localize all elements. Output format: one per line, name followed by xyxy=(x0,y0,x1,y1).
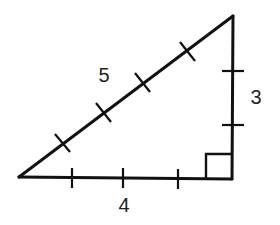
triangle-diagram: 4 3 5 xyxy=(0,0,280,225)
base-edge xyxy=(19,177,232,179)
right-angle-marker xyxy=(206,154,232,178)
height-length-label: 3 xyxy=(250,87,261,107)
height-edge xyxy=(232,16,233,179)
base-length-label: 4 xyxy=(118,195,129,215)
hypotenuse-edge xyxy=(19,16,233,177)
triangle-svg xyxy=(0,0,280,225)
hypotenuse-length-label: 5 xyxy=(98,65,109,85)
